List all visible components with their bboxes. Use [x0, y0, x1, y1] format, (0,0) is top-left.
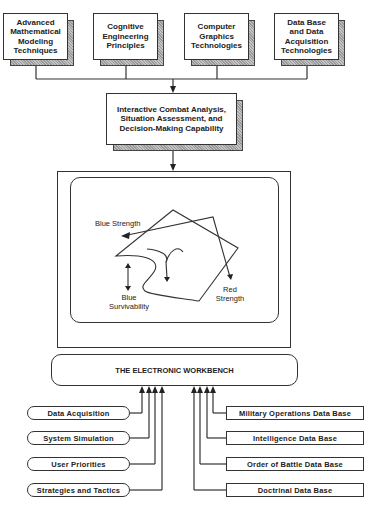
input-order-of-battle-db: Order of Battle Data Base [226, 457, 364, 471]
top-box-math-modeling: Advanced Mathematical Modeling Technique… [3, 13, 68, 60]
input-military-operations-db: Military Operations Data Base [226, 406, 364, 420]
central-box-label: Interactive Combat Analysis, Situation A… [113, 105, 230, 134]
input-label: Order of Battle Data Base [247, 460, 343, 469]
top-box-cognitive-engineering: Cognitive Engineering Principles [93, 13, 158, 60]
central-box-combat-analysis: Interactive Combat Analysis, Situation A… [106, 93, 237, 145]
electronic-workbench: THE ELECTRONIC WORKBENCH [51, 354, 298, 386]
input-label: Strategies and Tactics [37, 486, 120, 495]
input-label: Doctrinal Data Base [258, 486, 333, 495]
top-box-computer-graphics: Computer Graphics Technologies [184, 13, 249, 60]
input-label: System Simulation [43, 434, 114, 443]
input-strategies-tactics: Strategies and Tactics [27, 483, 130, 497]
label-blue-survivability: Blue Survivability [107, 293, 151, 311]
workbench-label: THE ELECTRONIC WORKBENCH [115, 366, 233, 375]
top-box-label: Data Base and Data Acquisition Technolog… [279, 18, 334, 56]
input-doctrinal-db: Doctrinal Data Base [226, 483, 364, 497]
monitor-screen [70, 177, 279, 323]
input-intelligence-db: Intelligence Data Base [226, 431, 364, 445]
input-data-acquisition: Data Acquisition [27, 406, 130, 420]
top-box-label: Computer Graphics Technologies [189, 22, 244, 51]
top-box-database-acquisition: Data Base and Data Acquisition Technolog… [274, 13, 339, 60]
input-label: Intelligence Data Base [253, 434, 337, 443]
label-blue-strength: Blue Strength [95, 219, 140, 228]
top-box-label: Cognitive Engineering Principles [102, 22, 149, 51]
top-box-label: Advanced Mathematical Modeling Technique… [4, 18, 67, 56]
input-label: User Priorities [51, 460, 105, 469]
input-system-simulation: System Simulation [27, 431, 130, 445]
label-red-strength: Red Strength [215, 285, 245, 303]
input-label: Data Acquisition [47, 409, 109, 418]
input-label: Military Operations Data Base [239, 409, 351, 418]
input-user-priorities: User Priorities [27, 457, 130, 471]
